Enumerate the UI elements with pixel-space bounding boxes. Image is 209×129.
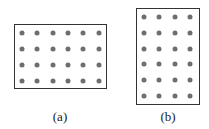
dot (157, 30, 162, 35)
dot (157, 78, 162, 83)
dot (65, 31, 70, 36)
dot (20, 47, 25, 52)
dot (142, 46, 147, 51)
dot (50, 79, 55, 84)
dot (142, 30, 147, 35)
dot (187, 30, 192, 35)
dot (81, 79, 86, 84)
dot (172, 62, 177, 67)
dot (172, 46, 177, 51)
dot (187, 62, 192, 67)
dot (142, 15, 147, 20)
dot (35, 47, 40, 52)
dot (35, 63, 40, 68)
caption-a: (a) (53, 109, 67, 125)
dot (50, 63, 55, 68)
dot (172, 15, 177, 20)
dot (187, 94, 192, 99)
dot (35, 31, 40, 36)
dot (20, 63, 25, 68)
dot (96, 31, 101, 36)
dot (157, 94, 162, 99)
dot (157, 46, 162, 51)
dot (50, 47, 55, 52)
dot (20, 79, 25, 84)
dot (142, 78, 147, 83)
dot (20, 31, 25, 36)
caption-b: (b) (160, 109, 175, 125)
dot (187, 15, 192, 20)
rectangle-6x4-grid (14, 24, 107, 89)
dot (187, 78, 192, 83)
dot (96, 79, 101, 84)
dot (96, 63, 101, 68)
dot (50, 31, 55, 36)
dot (157, 62, 162, 67)
dot (187, 46, 192, 51)
dot (172, 94, 177, 99)
dot (142, 94, 147, 99)
dot (65, 47, 70, 52)
rectangle-4x6-grid (136, 8, 200, 105)
dot (35, 79, 40, 84)
dot (172, 78, 177, 83)
dot (142, 62, 147, 67)
dot (96, 47, 101, 52)
dot (81, 63, 86, 68)
dot (172, 30, 177, 35)
dot (157, 15, 162, 20)
dot (81, 31, 86, 36)
dot (65, 63, 70, 68)
dot (65, 79, 70, 84)
dot (81, 47, 86, 52)
